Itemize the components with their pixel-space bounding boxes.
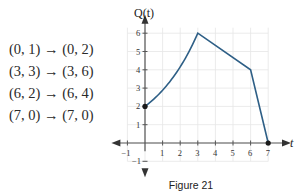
y-axis-label: Q(t)	[134, 6, 154, 20]
svg-text:5: 5	[231, 148, 235, 158]
graph: −11234567−1123456 Q(t) t	[0, 0, 304, 195]
svg-text:7: 7	[266, 148, 270, 158]
point-marker	[266, 140, 271, 145]
x-axis-label: t	[290, 136, 294, 150]
svg-text:−1: −1	[121, 148, 130, 158]
tick-labels: −11234567−1123456	[121, 28, 270, 166]
svg-text:1: 1	[136, 120, 140, 130]
figure-caption: Figure 21	[0, 179, 304, 191]
svg-text:5: 5	[136, 47, 140, 57]
svg-text:6: 6	[136, 28, 140, 38]
svg-text:−1: −1	[132, 156, 141, 166]
svg-text:1: 1	[160, 148, 164, 158]
svg-text:3: 3	[136, 83, 140, 93]
point-marker	[142, 104, 147, 109]
svg-text:2: 2	[136, 101, 140, 111]
svg-text:2: 2	[178, 148, 182, 158]
svg-text:6: 6	[248, 148, 252, 158]
axes	[111, 15, 291, 178]
svg-text:4: 4	[213, 148, 218, 158]
svg-text:3: 3	[195, 148, 199, 158]
